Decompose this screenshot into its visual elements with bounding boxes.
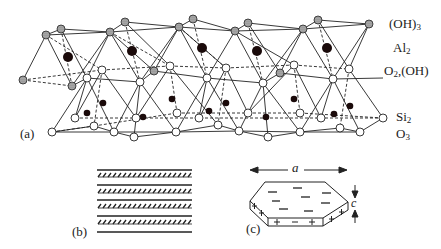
layer-label-oh3: (OH)3 — [389, 17, 421, 32]
layer-label-al2: Al2 — [393, 41, 411, 56]
layer-label-o3: O3 — [396, 127, 410, 142]
panel-b-layer-stack — [97, 170, 192, 232]
figure-drawing — [0, 0, 441, 249]
panel-c-platelet — [250, 167, 358, 226]
layer-label-o2-oh: O2,(OH) — [384, 64, 429, 79]
panel-label-a: (a) — [20, 127, 34, 140]
si-atoms — [84, 96, 354, 121]
panel-label-c: (c) — [246, 222, 260, 235]
dimension-label-c: c — [351, 197, 356, 209]
clay-structure-figure: (OH)3 Al2 O2,(OH) Si2 O3 (a) (b) (c) a c — [0, 0, 441, 249]
dimension-label-a: a — [292, 161, 299, 174]
layer-label-si2: Si2 — [396, 110, 411, 125]
panel-label-b: (b) — [72, 225, 87, 238]
